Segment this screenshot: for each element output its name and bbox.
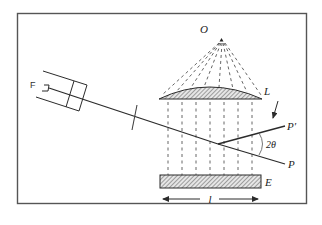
point-source: O (200, 23, 223, 42)
optics-diagram: O L E l F (0, 0, 322, 225)
screen-plate (160, 175, 261, 188)
label-F: F (30, 80, 36, 90)
source-triangle-icon (220, 38, 224, 42)
label-angle: 2θ (266, 139, 276, 150)
label-P: P (287, 158, 295, 170)
label-L: L (263, 85, 270, 97)
angle-arc (259, 133, 263, 155)
direction-arrow-icon (273, 101, 278, 118)
label-P-prime: P′ (286, 120, 297, 132)
device-F (36, 71, 87, 111)
label-O: O (200, 23, 208, 35)
label-E: E (264, 176, 272, 188)
lens (159, 87, 262, 99)
label-l: l (208, 193, 211, 205)
